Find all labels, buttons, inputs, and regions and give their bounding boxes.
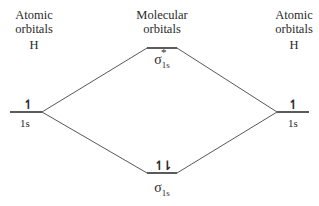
left-column-title: Atomic orbitals H [0, 8, 74, 52]
left-to-sigma [42, 112, 147, 173]
left-1s-label: 1s [10, 117, 40, 129]
left-title-line2: orbitals [0, 22, 74, 36]
left-title-element: H [0, 38, 74, 52]
sigma-star-label: σ1s* [142, 52, 182, 70]
left-title-line1: Atomic [0, 8, 74, 22]
left-1s-electron-up-arrow-icon: ↿ [23, 98, 34, 111]
right-to-sigma-star [177, 48, 277, 112]
right-column-title: Atomic orbitals H [254, 8, 319, 52]
center-title-line1: Molecular [122, 8, 202, 22]
sigma-symbol: σ [154, 180, 162, 195]
right-to-sigma [177, 112, 277, 173]
right-title-line2: orbitals [254, 22, 319, 36]
right-title-line1: Atomic [254, 8, 319, 22]
sigma-star-superscript: * [161, 46, 167, 58]
sigma-electron-pair-arrows-icon: ↿⇂ [154, 159, 170, 172]
sigma-subscript: 1s [162, 188, 170, 198]
center-title-line2: orbitals [122, 22, 202, 36]
right-title-element: H [254, 38, 319, 52]
sigma-label: σ1s [142, 180, 182, 198]
center-column-title: Molecular orbitals [122, 8, 202, 36]
right-1s-label: 1s [278, 117, 308, 129]
left-to-sigma-star [42, 48, 147, 112]
right-1s-electron-up-arrow-icon: ↿ [288, 98, 299, 111]
sigma-star-subscript: 1s [162, 60, 170, 70]
